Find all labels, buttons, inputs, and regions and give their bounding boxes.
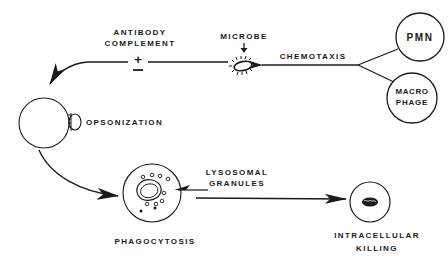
chemotaxis-label: CHEMOTAXIS [280, 52, 347, 61]
down-arrow-icon [241, 43, 248, 53]
killing-label: KILLING [356, 244, 398, 253]
opsonization-node: OPSONIZATION [19, 98, 163, 148]
intracellular-killing-node: INTRACELLULAR KILLING [334, 182, 420, 253]
lysosome-granules-icon [140, 173, 170, 212]
pmn-node: PMN [396, 13, 444, 61]
modifiers-label: ANTIBODY COMPLEMENT + [105, 28, 176, 70]
pmn-label: PMN [406, 32, 433, 43]
killed-microbe-icon [362, 198, 378, 207]
antibody-label: ANTIBODY [114, 28, 167, 37]
phagocytosis-diagram: PMN MACRO PHAGE CHEMOTAXIS MICROBE ANTIB… [0, 0, 448, 267]
granules-label: GRANULES [209, 179, 265, 188]
lysosomal-label: LYSOSOMAL [206, 168, 269, 177]
macrophage-node: MACRO PHAGE [387, 73, 437, 123]
macrophage-label-line1: MACRO [395, 87, 428, 96]
microbe-node: MICROBE [220, 32, 268, 75]
complement-label: COMPLEMENT [105, 39, 176, 48]
microbe-icon [229, 56, 254, 75]
branch-lines [358, 49, 398, 82]
phagocytosis-node: PHAGOCYTOSIS [114, 164, 195, 246]
phagocytosis-label: PHAGOCYTOSIS [114, 237, 195, 246]
phagosome-icon [137, 180, 161, 201]
plus-sign: + [134, 52, 142, 67]
macrophage-label-line2: PHAGE [396, 98, 428, 107]
microbe-label: MICROBE [220, 32, 268, 41]
opsonized-microbe-icon [68, 113, 81, 131]
opsonization-to-phagocytosis-arrow [39, 150, 118, 196]
intracellular-label: INTRACELLULAR [334, 231, 420, 240]
back-barb-icon [174, 185, 190, 190]
opsonization-label: OPSONIZATION [86, 118, 163, 127]
